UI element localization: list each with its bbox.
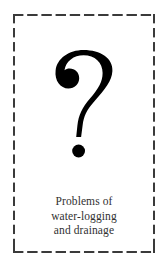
figure-border-top <box>13 14 155 16</box>
question-mark-dot <box>72 145 85 158</box>
figure-border-bottom <box>13 251 155 253</box>
figure-border-corner-bottom-right <box>153 247 155 253</box>
figure-border-corner-top-left <box>13 14 15 20</box>
figure-caption: Problems of water-logging and drainage <box>13 194 155 238</box>
figure-card: Problems of water-logging and drainage <box>13 14 155 253</box>
question-mark-icon <box>13 48 155 168</box>
figure-border-corner-top-right <box>153 14 155 20</box>
caption-line-1: Problems of <box>13 194 155 209</box>
figure-border-corner-bottom-left <box>13 247 15 253</box>
caption-line-2: water-logging <box>13 209 155 224</box>
caption-line-3: and drainage <box>13 223 155 238</box>
